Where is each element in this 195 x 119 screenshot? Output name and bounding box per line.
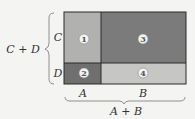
- svg-text:2: 2: [81, 68, 87, 78]
- svg-text:4: 4: [140, 68, 146, 78]
- row-label-d: D: [53, 67, 63, 80]
- circle-number-2: 2: [79, 68, 89, 78]
- horizontal-brace-label: A + B: [109, 105, 142, 118]
- svg-text:1: 1: [81, 34, 87, 44]
- vertical-brace-label: C + D: [6, 43, 40, 56]
- circle-number-3: 3: [138, 34, 148, 44]
- row-label-c: C: [54, 31, 63, 44]
- circle-number-4: 4: [138, 68, 148, 78]
- col-label-a: A: [78, 87, 87, 100]
- area-model-diagram: 1 3 2 4 C D A B C + D A + B: [0, 0, 195, 119]
- svg-text:3: 3: [140, 34, 146, 44]
- circle-number-1: 1: [79, 34, 89, 44]
- col-label-b: B: [138, 87, 147, 100]
